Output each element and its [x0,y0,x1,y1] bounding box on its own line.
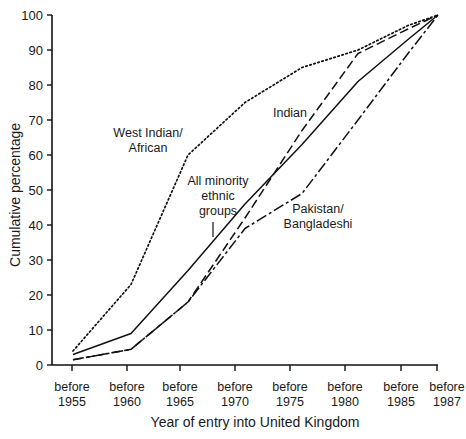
y-tick-label: 0 [36,358,43,373]
y-tick-label: 90 [29,43,43,58]
series-all-minority-ethnic-groups [73,15,438,355]
y-tick-label: 10 [29,323,43,338]
x-tick-label: before1987 [429,380,464,409]
cumulative-percentage-line-chart: 0102030405060708090100 before1955before1… [0,0,466,439]
series-indian [73,15,438,360]
y-tick-label: 20 [29,288,43,303]
x-axis-label: Year of entry into United Kingdom [151,414,360,430]
y-tick-label: 60 [29,148,43,163]
y-tick-label: 80 [29,78,43,93]
x-tick-label: before1955 [54,380,89,409]
y-tick-label: 40 [29,218,43,233]
inline-labels: West Indian/AfricanAll minorityethnicgro… [113,106,352,237]
annotation-label: Indian [273,106,307,120]
x-tick-label: before1970 [217,380,252,409]
x-tick-label: before1960 [109,380,144,409]
x-tick-label: before1980 [327,380,362,409]
series-west-indian-african [73,15,438,351]
y-tick-label: 70 [29,113,43,128]
annotation-label: Pakistan/Bangladeshi [284,202,353,231]
x-tick-label: before1965 [162,380,197,409]
y-tick-label: 100 [21,8,43,23]
x-tick-label: before1975 [272,380,307,409]
y-axis: 0102030405060708090100 [21,8,52,373]
annotation-label: All minorityethnicgroups [187,174,249,218]
y-axis-label: Cumulative percentage [7,123,23,267]
annotation-label: West Indian/African [113,126,183,155]
x-tick-label: before1985 [383,380,418,409]
y-tick-label: 50 [29,183,43,198]
x-axis: before1955before1960before1965before1970… [52,365,465,409]
series-lines [73,15,438,360]
y-tick-label: 30 [29,253,43,268]
series-pakistan-bangladeshi [73,15,438,360]
